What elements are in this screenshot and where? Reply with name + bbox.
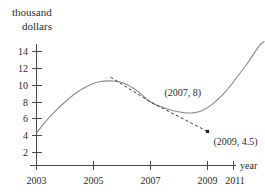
x-tick-label-2007: 2007 [141, 175, 161, 186]
x-tick-label-2003: 2003 [27, 175, 47, 186]
data-curve [37, 41, 265, 133]
y-tick-label-8: 8 [23, 97, 28, 108]
y-axis-label-line2: dollars [22, 20, 52, 32]
data-point-marker [206, 130, 209, 133]
x-tick-label-2009: 2009 [198, 175, 218, 186]
x-axis-label: year [240, 160, 258, 171]
y-tick-label-14: 14 [18, 46, 28, 57]
x-tick-label-2005: 2005 [84, 175, 104, 186]
tangent-line [111, 77, 208, 131]
annotation-2009-4point5: (2009, 4.5) [214, 136, 258, 148]
y-tick-label-2: 2 [23, 147, 28, 158]
y-tick-label-4: 4 [23, 130, 28, 141]
y-axis-label-line1: thousand [12, 6, 52, 18]
annotation-2007-8: (2007, 8) [165, 87, 202, 99]
x-tick-label-2011: 2011 [225, 175, 245, 186]
y-tick-label-10: 10 [18, 80, 28, 91]
chart-figure: thousand dollars 14 12 10 8 6 4 2 [0, 0, 265, 192]
y-tick-label-12: 12 [18, 63, 28, 74]
y-tick-label-6: 6 [23, 113, 28, 124]
chart-canvas: thousand dollars 14 12 10 8 6 4 2 [0, 0, 265, 192]
